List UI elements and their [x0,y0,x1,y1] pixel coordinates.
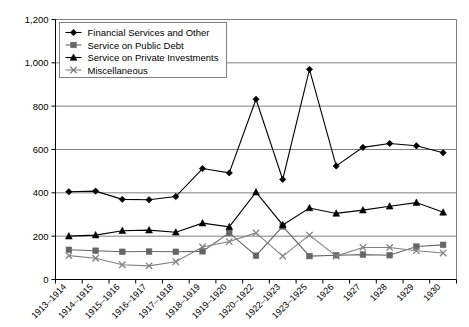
data-point-marker-square [173,249,179,255]
legend-item-financial-services-and-other[interactable]: Financial Services and Other [66,27,210,38]
data-point-marker-diamond [280,176,286,182]
y-tick-label: 1,200 [25,14,49,25]
series-line [69,69,443,199]
data-point-marker-triangle [199,220,206,226]
data-point-marker-square [440,242,446,248]
data-point-marker-square [360,252,366,258]
data-point-marker-square [253,253,259,259]
y-tick-label: 0 [43,274,48,285]
line-chart: 02004006008001,0001,200 1913–19141914–19… [0,0,469,327]
legend-item-label: Service on Public Debt [88,40,184,51]
data-point-marker-cross [253,230,259,236]
chart-legend: Financial Services and OtherService on P… [60,23,227,78]
legend-item-service-on-private-investments[interactable]: Service on Private Investments [66,52,219,63]
data-point-marker-triangle [413,199,420,205]
data-point-marker-triangle [253,189,260,195]
x-tick-label: 1926 [314,282,335,303]
y-tick-label: 800 [33,101,49,112]
data-point-marker-square [120,249,126,255]
data-point-marker-diamond [92,188,98,194]
x-tick-label: 1928 [368,282,389,303]
x-axis-tick-labels: 1913–19141914–19151915–19161916–19171917… [29,280,456,321]
data-series-layer [65,66,446,269]
legend-item-label: Service on Private Investments [88,52,219,63]
series-financial-services-and-other [66,66,447,203]
y-tick-label: 600 [33,144,49,155]
data-point-marker-diamond [253,96,259,102]
data-point-marker-diamond [146,197,152,203]
data-point-marker-square [146,249,152,255]
data-point-marker-diamond [306,66,312,72]
data-point-marker-square [71,42,77,48]
legend-item-label: Miscellaneous [88,65,148,76]
legend-item-label: Financial Services and Other [88,27,210,38]
y-tick-label: 1,000 [25,57,49,68]
data-point-marker-diamond [440,150,446,156]
data-point-marker-square [66,247,72,253]
data-point-marker-diamond [386,140,392,146]
data-point-marker-triangle [306,204,313,210]
data-point-marker-cross [280,253,286,259]
chart-canvas: 02004006008001,0001,200 1913–19141914–19… [0,0,469,327]
y-tick-label: 400 [33,187,49,198]
x-tick-label: 1927 [341,282,362,303]
data-point-marker-diamond [66,189,72,195]
data-point-marker-cross [306,232,312,238]
data-point-marker-diamond [226,170,232,176]
x-tick-label: 1930 [421,282,442,303]
data-point-marker-square [93,248,99,254]
y-axis-tick-labels: 02004006008001,0001,200 [25,14,56,285]
data-point-marker-square [307,253,313,259]
data-point-marker-diamond [333,163,339,169]
data-point-marker-square [226,230,232,236]
data-point-marker-diamond [119,196,125,202]
data-point-marker-square [387,252,393,258]
y-tick-label: 200 [33,231,49,242]
x-tick-label: 1929 [395,282,416,303]
data-point-marker-diamond [413,143,419,149]
